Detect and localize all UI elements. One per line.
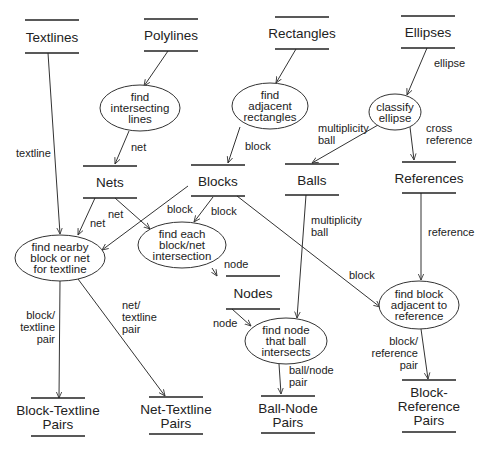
store-label: Pairs	[414, 413, 445, 428]
flow-label-text: reference	[426, 134, 472, 146]
store-block-reference-pairs: Block-ReferencePairs	[398, 380, 460, 432]
store-label: Nodes	[233, 286, 272, 301]
flow-label-text: textline	[122, 311, 157, 323]
store-label: Textlines	[26, 30, 79, 45]
process-label: lines	[128, 113, 152, 125]
data-stores: TextlinesPolylinesRectanglesEllipsesNets…	[16, 16, 463, 436]
flow-label-text: net	[108, 208, 123, 220]
edge-ellipses-to-classify	[407, 48, 427, 95]
store-label: Block-Textline	[16, 403, 99, 418]
flow-label-find-block-adjacent-reference-to-block-reference-pairs: block/referencepair	[372, 335, 419, 371]
store-polylines: Polylines	[144, 19, 198, 51]
flow-label-text: multiplicity	[311, 214, 362, 226]
flow-label-text: cross	[426, 122, 453, 134]
edge-nearby-to-block-textline	[59, 281, 60, 398]
store-label: Pairs	[43, 417, 74, 432]
process-label: reference	[395, 310, 444, 322]
process-label: for textline	[33, 263, 86, 275]
flow-label-text: pair	[289, 376, 308, 388]
flow-label-text: ellipse	[434, 57, 465, 69]
store-label: Nets	[96, 175, 124, 190]
flow-label-text: textline	[16, 147, 51, 159]
process-find-block-net-intersection: find eachblock/netintersection	[138, 222, 226, 268]
edge-textlines-to-nearby	[48, 53, 60, 234]
flow-label-text: net	[90, 217, 105, 229]
edge-rectangles-to-adjacent	[276, 49, 296, 83]
store-label: Pairs	[161, 416, 192, 431]
edge-adjacent-to-blocks	[228, 127, 240, 163]
store-label: Ball-Node	[258, 401, 317, 416]
flow-label-text: ball	[318, 134, 335, 146]
store-label: References	[394, 171, 463, 186]
flow-label-text: pair	[122, 323, 141, 335]
flow-label-text: reference	[428, 226, 474, 238]
store-balls: Balls	[285, 164, 339, 195]
flow-label-text: block	[349, 269, 375, 281]
store-textlines: Textlines	[25, 20, 79, 53]
flow-label-blocks-to-find-block-net-intersection: block	[211, 205, 237, 217]
flow-label-text: net	[131, 141, 146, 153]
flow-label-find-nearby-block-or-net-to-block-textline-pairs: block/textlinepair	[20, 309, 56, 345]
flow-label-text: node	[224, 258, 248, 270]
store-net-textline-pairs: Net-TextlinePairs	[140, 397, 211, 434]
process-label: intersects	[261, 346, 310, 358]
edge-intersection-to-nodes	[212, 268, 217, 276]
store-blocks: Blocks	[191, 165, 245, 196]
edge-polylines-to-intersecting	[144, 51, 168, 86]
flow-label-text: block	[211, 205, 237, 217]
flow-label-ellipses-to-classify-ellipse: ellipse	[434, 57, 465, 69]
process-label: rectangles	[243, 111, 296, 123]
store-ball-node-pairs: Ball-NodePairs	[258, 396, 317, 433]
flow-label-classify-ellipse-to-references: crossreference	[426, 122, 472, 146]
flow-label-blocks-to-find-block-adjacent-reference: block	[349, 269, 375, 281]
edge-classify-to-references	[410, 127, 414, 160]
store-label: Blocks	[198, 174, 238, 189]
edge-adjacent-ref-to-block-reference	[421, 329, 428, 379]
flow-label-text: block	[245, 140, 271, 152]
data-flow-diagram: TextlinesPolylinesRectanglesEllipsesNets…	[0, 0, 482, 449]
flow-label-text: reference	[372, 347, 418, 359]
process-find-nearby-block-or-net: find nearbyblock or netfor textline	[15, 235, 105, 281]
flow-label-text: textline	[20, 321, 55, 333]
flow-label-text: ball	[311, 226, 328, 238]
flow-label-text: pair	[37, 333, 56, 345]
edge-balls-to-find-node	[297, 195, 306, 318]
flow-label-text: pair	[400, 359, 419, 371]
process-label: intersection	[153, 250, 212, 262]
store-block-textline-pairs: Block-TextlinePairs	[16, 398, 99, 436]
store-label: Pairs	[273, 415, 304, 430]
store-label: Polylines	[144, 28, 198, 43]
process-find-intersecting-lines: findintersectinglines	[100, 85, 180, 131]
flow-label-balls-to-find-node-ball-intersects: multiplicityball	[311, 214, 362, 238]
process-classify-ellipse: classifyellipse	[369, 94, 421, 130]
flow-label-text: net/	[122, 299, 141, 311]
store-references: References	[394, 162, 463, 193]
flow-label-find-block-net-intersection-to-nodes: node	[224, 258, 248, 270]
flow-label-find-intersecting-lines-to-nets: net	[131, 141, 146, 153]
edge-intersecting-to-nets	[115, 131, 129, 164]
flow-label-nets-to-find-nearby-block-or-net: net	[90, 217, 105, 229]
edge-find-node-to-ball-node	[279, 364, 281, 394]
process-label: ellipse	[379, 112, 412, 124]
store-nodes: Nodes	[226, 276, 280, 309]
flow-label-find-nearby-block-or-net-to-net-textline-pairs: net/textlinepair	[122, 299, 157, 335]
flow-label-text: block/	[26, 309, 56, 321]
process-find-block-adjacent-reference: find blockadjacent toreference	[379, 281, 459, 329]
flow-label-blocks-to-find-nearby-block-or-net: block	[167, 203, 193, 215]
store-label: Ellipses	[405, 25, 452, 40]
store-rectangles: Rectangles	[268, 17, 336, 49]
flow-label-text: block/	[389, 335, 419, 347]
flow-label-find-adjacent-rectangles-to-blocks: block	[245, 140, 271, 152]
flow-label-find-node-ball-intersects-to-ball-node-pairs: ball/nodepair	[289, 364, 334, 388]
process-find-node-ball-intersects: find nodethat ballintersects	[245, 318, 327, 364]
store-label: Rectangles	[268, 26, 336, 41]
flow-label-nodes-to-find-node-ball-intersects: node	[213, 317, 237, 329]
flow-label-nets-to-find-block-net-intersection: net	[108, 208, 123, 220]
store-ellipses: Ellipses	[401, 16, 455, 48]
flow-label-references-to-find-block-adjacent-reference: reference	[428, 226, 474, 238]
flow-label-text: block	[167, 203, 193, 215]
store-label: Balls	[297, 173, 327, 188]
process-find-adjacent-rectangles: findadjacentrectangles	[232, 83, 308, 129]
store-label: Reference	[398, 399, 460, 414]
flow-label-textlines-to-find-nearby-block-or-net: textline	[16, 147, 51, 159]
